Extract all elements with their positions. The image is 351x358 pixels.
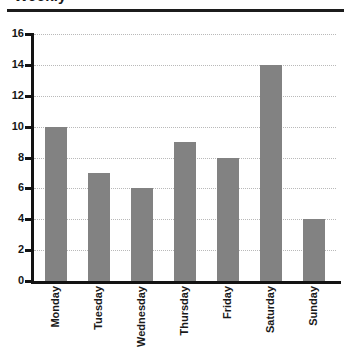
bar[interactable] xyxy=(45,127,67,281)
x-axis-tick-label: Sunday xyxy=(307,286,321,356)
gridline xyxy=(34,127,336,128)
y-axis-tick-label: 2 xyxy=(0,244,24,255)
x-axis-tick-label: Saturday xyxy=(264,286,278,356)
gridline xyxy=(34,96,336,97)
bar[interactable] xyxy=(88,173,110,281)
y-axis-tick xyxy=(25,64,32,67)
y-axis-tick xyxy=(25,218,32,221)
gridline xyxy=(34,34,336,35)
x-axis-tick-label: Tuesday xyxy=(92,286,106,356)
bar[interactable] xyxy=(131,188,153,281)
x-axis-tick-label: Thursday xyxy=(178,286,192,356)
x-axis-spine xyxy=(31,281,341,284)
y-axis-tick xyxy=(25,249,32,252)
y-axis-tick-label: 4 xyxy=(0,213,24,224)
y-axis-tick xyxy=(25,126,32,129)
y-axis-tick-label: 10 xyxy=(0,121,24,132)
plot-area xyxy=(34,34,336,281)
x-axis-tick-label: Monday xyxy=(49,286,63,356)
bar[interactable] xyxy=(260,65,282,281)
chart-title-clipped: Weekly xyxy=(0,0,351,8)
bar[interactable] xyxy=(303,219,325,281)
bar[interactable] xyxy=(174,142,196,281)
y-axis-tick xyxy=(25,33,32,36)
gridline xyxy=(34,65,336,66)
y-axis-tick xyxy=(25,157,32,160)
y-axis-labels: 0246810121416 xyxy=(0,0,24,358)
title-divider-rule xyxy=(7,9,344,12)
y-axis-tick-label: 6 xyxy=(0,182,24,193)
y-axis-tick-label: 8 xyxy=(0,152,24,163)
y-axis-tick-label: 14 xyxy=(0,59,24,70)
bar-chart: Weekly 0246810121416 MondayTuesdayWednes… xyxy=(0,0,351,358)
x-axis-labels: MondayTuesdayWednesdayThursdayFridaySatu… xyxy=(34,286,336,358)
y-axis-tick-label: 16 xyxy=(0,28,24,39)
bar[interactable] xyxy=(217,158,239,282)
y-axis-tick xyxy=(25,187,32,190)
y-axis-tick-label: 0 xyxy=(0,275,24,286)
y-axis-tick-label: 12 xyxy=(0,90,24,101)
x-axis-tick-label: Wednesday xyxy=(135,286,149,356)
y-axis-tick xyxy=(25,95,32,98)
x-axis-tick-label: Friday xyxy=(221,286,235,356)
